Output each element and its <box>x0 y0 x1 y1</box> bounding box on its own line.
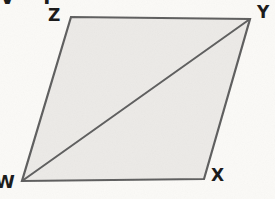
vertex-label-y: Y <box>257 4 269 21</box>
figure-canvas: V I Z Y W X <box>0 0 275 199</box>
vertex-label-x: X <box>211 167 224 184</box>
parallelogram-figure <box>0 0 275 199</box>
vertex-label-w: W <box>0 173 15 191</box>
vertex-label-z: Z <box>48 7 60 24</box>
